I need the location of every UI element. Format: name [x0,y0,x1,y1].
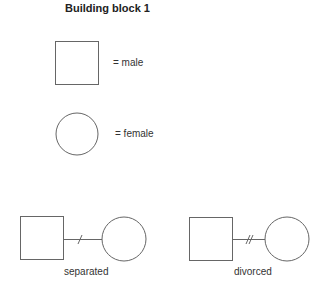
female-label: = female [115,128,154,139]
divorced-label: divorced [234,266,272,277]
separated-male-square [21,217,64,260]
separated-female-circle [102,217,146,261]
male-label: = male [113,57,143,68]
male-square-symbol [56,42,99,85]
divorced-male-square [190,218,233,261]
divorced-couple [190,217,310,261]
female-circle-symbol [56,113,98,155]
separated-couple [21,217,147,262]
genogram-diagram [0,0,323,288]
divorced-female-circle [265,217,309,261]
separated-label: separated [64,266,108,277]
